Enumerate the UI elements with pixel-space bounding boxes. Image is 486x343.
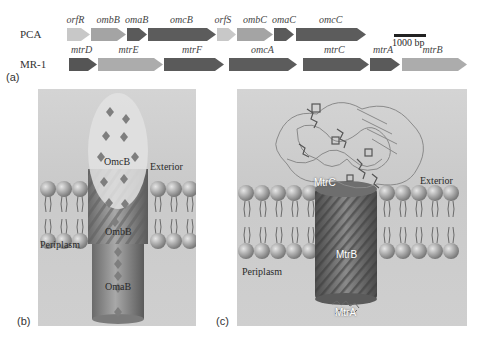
gene-label-omab: omaB <box>125 14 148 25</box>
gene-label-mtrb: mtrB <box>423 44 443 55</box>
gene-arrow-mtrd <box>69 57 97 72</box>
gene-arrow-mtre <box>98 57 163 72</box>
panel-label-c: (c) <box>216 315 229 327</box>
gene-label-omca: omcA <box>251 44 274 55</box>
gene-arrow-mtrc <box>303 57 369 72</box>
protein-label-omab: OmaB <box>105 281 131 292</box>
mtr-complex-illustration <box>237 89 467 326</box>
gene-arrow-mtrb <box>402 57 467 72</box>
gene-arrow-omac <box>274 27 294 42</box>
strain-label-pca: PCA <box>20 28 41 40</box>
gene-label-orfr: orfR <box>67 14 85 25</box>
gene-arrow-omcc <box>296 27 366 42</box>
gene-label-mtra: mtrA <box>373 44 393 55</box>
panel-c-diagram: MtrC MtrB MtrA Exterior Periplasm <box>237 89 467 326</box>
region-label-periplasm-b: Periplasm <box>40 239 80 250</box>
strain-label-mr1: MR-1 <box>20 58 46 70</box>
region-label-exterior-b: Exterior <box>150 161 183 172</box>
region-label-periplasm-c: Periplasm <box>242 266 282 277</box>
protein-label-ombb: OmbB <box>105 226 132 237</box>
gene-arrow-ombb <box>91 27 126 42</box>
gene-label-mtrc: mtrC <box>324 44 345 55</box>
gene-label-mtrf: mtrF <box>182 44 202 55</box>
gene-label-mtrd: mtrD <box>71 44 92 55</box>
gene-label-omac: omaC <box>272 14 296 25</box>
panel-label-b: (b) <box>17 315 30 327</box>
panel-label-a: (a) <box>6 71 19 83</box>
gene-label-orfs: orfS <box>215 14 232 25</box>
protein-label-mtrc: MtrC <box>314 177 336 188</box>
protein-label-mtrb: MtrB <box>336 249 357 260</box>
region-label-exterior-c: Exterior <box>420 175 453 186</box>
gene-arrow-omca <box>229 57 297 72</box>
gene-arrow-omab <box>127 27 147 42</box>
gene-arrow-mtrf <box>164 57 224 72</box>
gene-label-ombb: ombB <box>97 14 120 25</box>
scale-bar-label: 1000 bp <box>392 37 425 48</box>
gene-label-ombc: ombC <box>243 14 267 25</box>
gene-arrow-omcb <box>148 27 216 42</box>
gene-arrow-orfs <box>217 27 236 42</box>
protein-label-mtra: MtrA <box>335 307 356 318</box>
protein-label-omcb: OmcB <box>104 156 130 167</box>
gene-arrow-mtra <box>370 57 400 72</box>
gene-label-omcb: omcB <box>170 14 193 25</box>
panel-b-diagram: OmcB OmbB OmaB Exterior Periplasm <box>38 89 196 326</box>
gene-label-omcc: omcC <box>319 14 342 25</box>
gene-label-mtre: mtrE <box>119 44 139 55</box>
gene-arrow-ombc <box>237 27 273 42</box>
gene-arrow-orfr <box>67 27 90 42</box>
